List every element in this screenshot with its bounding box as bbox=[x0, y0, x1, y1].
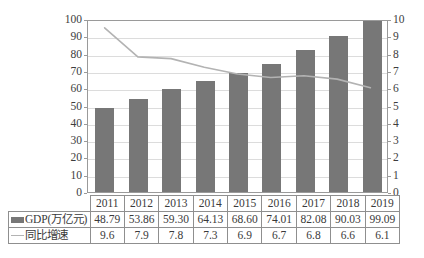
table-value-cell: 82.08 bbox=[296, 212, 330, 228]
right-axis-tick-label: 6 bbox=[393, 83, 399, 95]
left-axis-tick bbox=[84, 55, 87, 56]
table-header-cell: 2017 bbox=[296, 196, 330, 212]
table-value-cell: 59.30 bbox=[159, 212, 193, 228]
right-axis-tick bbox=[388, 72, 391, 73]
right-axis-tick-label: 1 bbox=[393, 170, 399, 182]
table-legend-cell: GDP(万亿元) bbox=[9, 212, 91, 228]
left-axis-tick bbox=[84, 176, 87, 177]
bar-swatch-icon bbox=[11, 217, 24, 223]
legend-label: 同比增速 bbox=[25, 229, 68, 242]
table-legend-cell: 同比增速 bbox=[9, 228, 91, 244]
line-series-growth-rate bbox=[88, 21, 387, 192]
table-row: GDP(万亿元)48.7953.8659.3064.1368.6074.0182… bbox=[9, 212, 400, 228]
right-axis-tick-label: 3 bbox=[393, 135, 399, 147]
table-value-cell: 6.6 bbox=[331, 228, 365, 244]
table-corner-cell bbox=[9, 196, 91, 212]
table-header-cell: 2016 bbox=[262, 196, 296, 212]
right-axis-tick bbox=[388, 141, 391, 142]
right-axis-tick-label: 2 bbox=[393, 152, 399, 164]
table-value-cell: 7.9 bbox=[124, 228, 158, 244]
left-axis-tick-label: 20 bbox=[71, 152, 83, 164]
left-axis-tick bbox=[84, 107, 87, 108]
table-header-cell: 2015 bbox=[228, 196, 262, 212]
left-axis-tick bbox=[84, 124, 87, 125]
right-axis-tick bbox=[388, 193, 391, 194]
table-value-cell: 48.79 bbox=[90, 212, 124, 228]
right-axis-tick bbox=[388, 176, 391, 177]
left-axis-tick-label: 100 bbox=[65, 14, 82, 26]
right-axis-tick bbox=[388, 37, 391, 38]
left-axis-tick-label: 40 bbox=[71, 118, 83, 130]
table-header-cell: 2013 bbox=[159, 196, 193, 212]
right-axis-tick-label: 8 bbox=[393, 49, 399, 61]
right-axis-tick-label: 9 bbox=[393, 31, 399, 43]
right-axis-tick bbox=[388, 158, 391, 159]
left-axis-tick bbox=[84, 72, 87, 73]
left-axis-tick-label: 90 bbox=[71, 31, 83, 43]
table-row: 同比增速9.67.97.87.36.96.76.86.66.1 bbox=[9, 228, 400, 244]
data-table: 201120122013201420152016201720182019GDP(… bbox=[8, 195, 400, 244]
line-swatch-icon bbox=[11, 235, 24, 236]
left-axis-tick-label: 70 bbox=[71, 66, 83, 78]
right-axis-tick bbox=[388, 20, 391, 21]
table-header-cell: 2014 bbox=[193, 196, 227, 212]
table-header-cell: 2012 bbox=[124, 196, 158, 212]
left-axis-tick-label: 30 bbox=[71, 135, 83, 147]
table-header-cell: 2018 bbox=[331, 196, 365, 212]
table-header-cell: 2011 bbox=[90, 196, 124, 212]
table-value-cell: 99.09 bbox=[365, 212, 399, 228]
right-axis-tick-label: 10 bbox=[393, 14, 405, 26]
table-value-cell: 68.60 bbox=[228, 212, 262, 228]
table-value-cell: 6.1 bbox=[365, 228, 399, 244]
table-value-cell: 6.7 bbox=[262, 228, 296, 244]
left-axis-tick bbox=[84, 193, 87, 194]
table-value-cell: 7.3 bbox=[193, 228, 227, 244]
legend-entry: 同比增速 bbox=[11, 229, 90, 242]
legend-label: GDP(万亿元) bbox=[25, 213, 87, 226]
right-axis-tick-label: 5 bbox=[393, 101, 399, 113]
table-value-cell: 74.01 bbox=[262, 212, 296, 228]
right-axis-tick bbox=[388, 124, 391, 125]
figure-caption bbox=[0, 249, 424, 258]
table-value-cell: 7.8 bbox=[159, 228, 193, 244]
left-axis-tick-label: 50 bbox=[71, 101, 83, 113]
left-axis-tick bbox=[84, 158, 87, 159]
legend-entry: GDP(万亿元) bbox=[11, 213, 90, 226]
right-axis-tick bbox=[388, 107, 391, 108]
right-axis-tick bbox=[388, 55, 391, 56]
table-header-cell: 2019 bbox=[365, 196, 399, 212]
left-axis-tick bbox=[84, 20, 87, 21]
table-value-cell: 53.86 bbox=[124, 212, 158, 228]
plot-area bbox=[87, 20, 388, 193]
table-header-row: 201120122013201420152016201720182019 bbox=[9, 196, 400, 212]
left-axis-tick bbox=[84, 141, 87, 142]
table-value-cell: 64.13 bbox=[193, 212, 227, 228]
table-value-cell: 6.9 bbox=[228, 228, 262, 244]
gdp-growth-combo-chart-figure: 0102030405060708090100 012345678910 2011… bbox=[0, 0, 424, 258]
table-value-cell: 9.6 bbox=[90, 228, 124, 244]
table-value-cell: 6.8 bbox=[296, 228, 330, 244]
left-axis-tick-label: 80 bbox=[71, 49, 83, 61]
left-axis-tick bbox=[84, 89, 87, 90]
right-axis-tick-label: 7 bbox=[393, 66, 399, 78]
right-axis-tick-label: 4 bbox=[393, 118, 399, 130]
left-axis-tick-label: 60 bbox=[71, 83, 83, 95]
right-axis-tick bbox=[388, 89, 391, 90]
left-axis-tick bbox=[84, 37, 87, 38]
table-value-cell: 90.03 bbox=[331, 212, 365, 228]
left-axis-tick-label: 10 bbox=[71, 170, 83, 182]
